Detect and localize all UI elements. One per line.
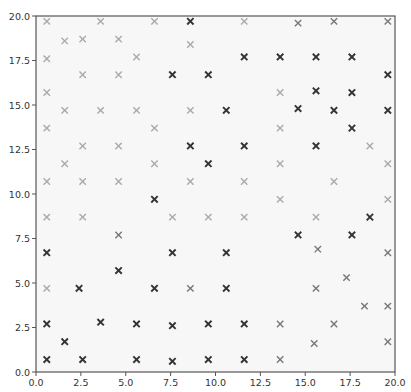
- x-tick-label: 15.0: [295, 377, 316, 388]
- x-tick-label: 20.0: [384, 377, 405, 388]
- y-tick-label: 5.0: [15, 278, 30, 289]
- plot-area: [36, 16, 395, 372]
- chart-canvas: 0.02.55.07.510.012.515.017.520.0 0.02.55…: [0, 0, 411, 392]
- y-tick-label: 17.5: [9, 55, 30, 66]
- x-tick-label: 12.5: [250, 377, 271, 388]
- y-tick-label: 0.0: [15, 367, 30, 378]
- x-tick-label: 17.5: [340, 377, 361, 388]
- x-tick-label: 0.0: [28, 377, 43, 388]
- x-tick-label: 7.5: [163, 377, 178, 388]
- y-tick-label: 15.0: [9, 100, 30, 111]
- y-tick-label: 20.0: [9, 11, 30, 22]
- y-tick-label: 10.0: [9, 189, 30, 200]
- y-tick-label: 12.5: [9, 144, 30, 155]
- x-tick-label: 10.0: [205, 377, 226, 388]
- x-tick-label: 5.0: [118, 377, 133, 388]
- scatter-chart: 0.02.55.07.510.012.515.017.520.0 0.02.55…: [0, 0, 411, 392]
- x-tick-label: 2.5: [73, 377, 88, 388]
- y-tick-label: 2.5: [15, 322, 30, 333]
- y-tick-label: 7.5: [15, 233, 30, 244]
